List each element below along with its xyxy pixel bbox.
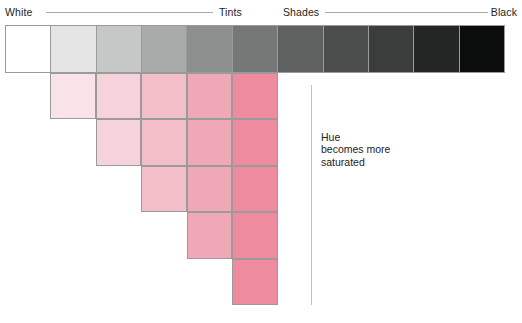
staircase-cell <box>96 73 141 119</box>
grayscale-cell <box>278 26 323 72</box>
staircase-cell <box>96 119 141 165</box>
grayscale-cell <box>142 26 187 72</box>
staircase-row <box>5 119 505 165</box>
staircase-cell <box>187 119 232 165</box>
annotation-line-3: saturated <box>321 156 390 168</box>
staircase-cell <box>232 212 277 258</box>
axis-rule-right <box>325 12 488 13</box>
axis-label-tints: Tints <box>219 6 242 18</box>
axis-label-black: Black <box>491 6 517 18</box>
color-chart-figure: White Tints Shades Black Hue becomes mor… <box>0 0 522 323</box>
axis-rule-left <box>46 12 213 13</box>
annotation-line-2: becomes more <box>321 143 390 155</box>
grayscale-value-strip <box>5 25 505 73</box>
grayscale-cell <box>414 26 459 72</box>
staircase-row <box>5 73 505 119</box>
grayscale-cell <box>187 26 232 72</box>
staircase-cell <box>50 73 95 119</box>
staircase-cell <box>141 119 186 165</box>
staircase-cell <box>187 166 232 212</box>
staircase-cell <box>232 166 277 212</box>
grayscale-cell <box>233 26 278 72</box>
grayscale-cell <box>460 26 504 72</box>
axis-header: White Tints Shades Black <box>0 0 522 24</box>
grayscale-cell <box>324 26 369 72</box>
staircase-cell <box>141 73 186 119</box>
staircase-cell <box>187 73 232 119</box>
grayscale-cell <box>369 26 414 72</box>
staircase-cell <box>232 259 277 305</box>
grayscale-cell <box>51 26 96 72</box>
staircase-cell <box>232 73 277 119</box>
saturation-annotation: Hue becomes more saturated <box>321 131 390 168</box>
annotation-line-1: Hue <box>321 131 390 143</box>
axis-label-white: White <box>5 6 32 18</box>
staircase-cell <box>141 166 186 212</box>
staircase-cell <box>232 119 277 165</box>
staircase-row <box>5 166 505 212</box>
staircase-cell <box>187 212 232 258</box>
staircase-row <box>5 212 505 258</box>
grayscale-cell <box>97 26 142 72</box>
vertical-divider-line <box>311 85 312 305</box>
staircase-row <box>5 259 505 305</box>
saturation-staircase-grid <box>5 73 505 306</box>
axis-label-shades: Shades <box>283 6 319 18</box>
grayscale-cell <box>6 26 51 72</box>
